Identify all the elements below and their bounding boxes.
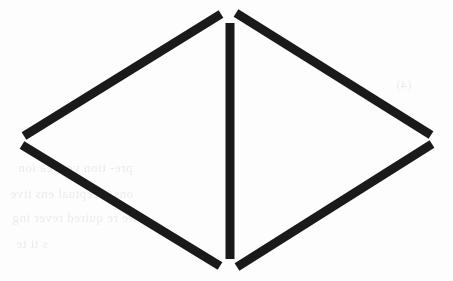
lower-right-diagonal-stroke xyxy=(237,144,432,267)
upper-left-diagonal-stroke xyxy=(24,14,221,136)
line-drawing-canvas xyxy=(0,0,453,281)
stroke-group xyxy=(22,13,432,267)
upper-right-diagonal-stroke xyxy=(236,13,431,135)
lower-left-diagonal-stroke xyxy=(22,145,220,266)
figure-page: pre- tion ves rea ion ons erceptual ens … xyxy=(0,0,453,281)
